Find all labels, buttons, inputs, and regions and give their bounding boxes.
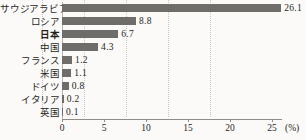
bar [62, 17, 136, 25]
bar-row: 中国4.3 [0, 41, 306, 54]
bar [62, 95, 64, 103]
bar-value-label: 1.1 [74, 67, 87, 80]
x-axis-tick [188, 119, 189, 122]
bar-row: ドイツ0.8 [0, 80, 306, 93]
category-label: フランス [0, 54, 60, 67]
clipped-caption-strip [0, 135, 306, 140]
category-label: 日本 [0, 28, 60, 41]
category-label: 米国 [0, 67, 60, 80]
x-axis-tick-label: 5 [102, 121, 107, 135]
bar-value-label: 6.7 [121, 28, 134, 41]
bar-row: フランス1.2 [0, 54, 306, 67]
bar-value-label: 0.1 [66, 106, 79, 119]
horizontal-bar-chart: サウジアラビア26.1ロシア8.8日本6.7中国4.3フランス1.2米国1.1ド… [0, 0, 306, 140]
bar [62, 43, 98, 51]
bar-row: 日本6.7 [0, 28, 306, 41]
x-axis-tick [62, 119, 63, 122]
bar-row: イタリア0.2 [0, 93, 306, 106]
bar [62, 30, 118, 38]
bar-value-label: 0.2 [67, 93, 80, 106]
bar [62, 82, 69, 90]
bar [62, 108, 63, 116]
bar-value-label: 8.8 [139, 15, 152, 28]
bar-row: 英国0.1 [0, 106, 306, 119]
x-axis-tick-label: 15 [183, 121, 193, 135]
x-axis-tick [146, 119, 147, 122]
x-axis-line [62, 119, 282, 120]
x-axis-unit-label: (%) [285, 121, 299, 135]
bar-row: 米国1.1 [0, 67, 306, 80]
category-label: イタリア [0, 93, 60, 106]
x-axis-tick-label: 10 [141, 121, 151, 135]
x-axis-tick [272, 119, 273, 122]
bar-value-label: 0.8 [72, 80, 85, 93]
bar-value-label: 4.3 [101, 41, 114, 54]
bar [62, 4, 281, 12]
bar-value-label: 1.2 [75, 54, 88, 67]
x-axis-tick [104, 119, 105, 122]
bar-value-label: 26.1 [284, 2, 302, 15]
bar-rows: サウジアラビア26.1ロシア8.8日本6.7中国4.3フランス1.2米国1.1ド… [0, 0, 306, 119]
x-axis-tick [230, 119, 231, 122]
category-label: 中国 [0, 41, 60, 54]
x-axis-tick-label: 25 [267, 121, 277, 135]
x-axis-tick-label: 20 [225, 121, 235, 135]
category-label: ドイツ [0, 80, 60, 93]
category-label: 英国 [0, 106, 60, 119]
x-axis-tick-label: 0 [60, 121, 65, 135]
bar [62, 69, 71, 77]
bar-row: ロシア8.8 [0, 15, 306, 28]
bar-row: サウジアラビア26.1 [0, 2, 306, 15]
bar [62, 56, 72, 64]
x-axis-tick-labels: (%) 0510152025 [0, 121, 306, 135]
category-label: ロシア [0, 15, 60, 28]
category-label: サウジアラビア [0, 2, 60, 15]
